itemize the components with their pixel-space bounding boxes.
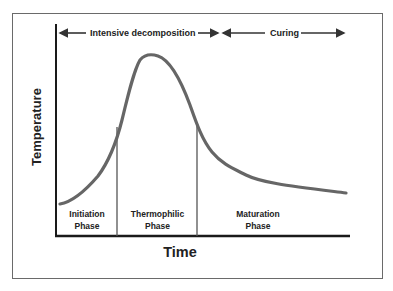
phase-label-line1: Initiation bbox=[57, 208, 117, 220]
temperature-curve bbox=[60, 55, 346, 204]
phase-label-line1: Maturation bbox=[198, 208, 318, 220]
phase-label-thermophilic: Thermophilic Phase bbox=[118, 208, 197, 232]
phase-label-maturation: Maturation Phase bbox=[198, 208, 318, 232]
phase-label-line2: Phase bbox=[198, 220, 318, 232]
x-axis-label: Time bbox=[100, 244, 260, 260]
stage-label-intensive-decomposition: Intensive decomposition bbox=[88, 28, 198, 38]
phase-label-line2: Phase bbox=[118, 220, 197, 232]
stage-label-curing: Curing bbox=[268, 28, 301, 38]
phase-label-line1: Thermophilic bbox=[118, 208, 197, 220]
y-axis-label: Temperature bbox=[29, 88, 44, 166]
phase-label-initiation: Initiation Phase bbox=[57, 208, 117, 232]
phase-label-line2: Phase bbox=[57, 220, 117, 232]
